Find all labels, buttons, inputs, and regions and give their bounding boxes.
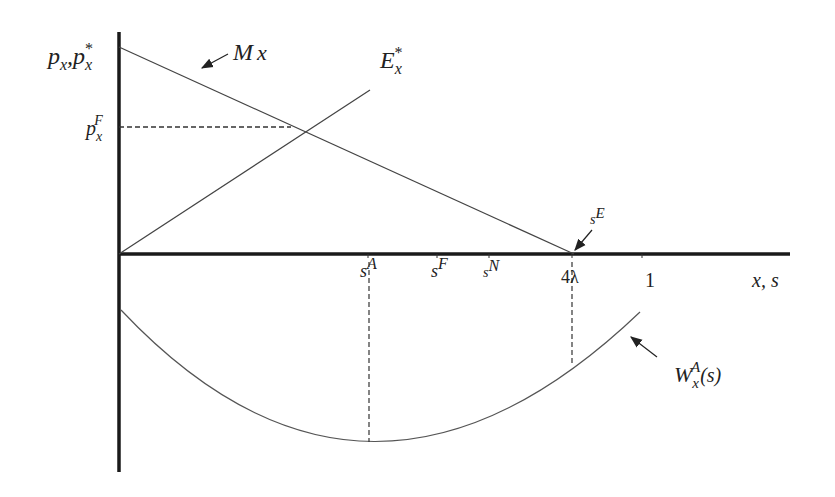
pxF-sub: x [96, 129, 102, 144]
pxF-label: pxF [86, 118, 103, 138]
ex-sub: x [395, 60, 402, 77]
ex-base: E [380, 47, 395, 73]
y-label-sup2: * [84, 40, 92, 57]
y-label-sub2: x [85, 56, 92, 73]
pxF-sup: F [94, 113, 103, 128]
wxA-arg: (s) [700, 364, 721, 386]
sF-base: s [431, 261, 438, 281]
mx-sub: x [257, 40, 267, 65]
wxA-sub: x [692, 375, 699, 391]
mx-line [119, 47, 574, 254]
tick-label-4lambda: 4λ [561, 268, 579, 286]
ex-label: Ex* [380, 48, 402, 72]
tick-label-sA: sA [360, 262, 377, 280]
wxA-arrow-icon [631, 337, 657, 357]
sE-sup: E [595, 205, 604, 221]
tick-label-sF: sF [431, 262, 448, 280]
y-axis-label: px,px* [48, 44, 92, 68]
y-label-sub1: x [60, 56, 67, 73]
mx-base: M [233, 39, 253, 65]
sN-sup: N [488, 257, 499, 274]
wxA-sup: A [691, 359, 700, 375]
diagram-canvas [0, 0, 835, 497]
ex-line [119, 90, 370, 254]
mx-label: Mx [233, 40, 267, 64]
x-axis-label: x, s [752, 270, 779, 290]
wxA-label: WxA(s) [674, 364, 721, 386]
sE-arrow-icon [575, 230, 592, 250]
ex-sup: * [394, 44, 402, 61]
wxA-base: W [674, 362, 692, 387]
sA-sup: A [367, 255, 377, 272]
sF-sup: F [438, 255, 448, 272]
y-label-base1: p [48, 43, 60, 69]
mx-arrow-icon [202, 54, 228, 68]
wxA-curve [121, 310, 640, 442]
tick-label-1: 1 [645, 270, 655, 290]
tick-label-sN: sN [483, 264, 499, 280]
sE-label: sE [590, 212, 605, 227]
sA-base: s [360, 261, 367, 281]
